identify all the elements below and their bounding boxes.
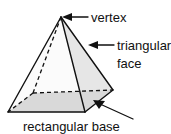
pyramid-diagram: vertex triangular face rectangular base xyxy=(0,0,171,134)
rectangular-base-label: rectangular base xyxy=(23,119,120,134)
rectangular-base-leader-line xyxy=(100,104,133,119)
pyramid-figure-svg: vertex triangular face rectangular base xyxy=(0,0,171,134)
face-label: face xyxy=(117,56,142,71)
triangular-label: triangular xyxy=(117,38,171,53)
vertex-label: vertex xyxy=(91,10,127,25)
triangular-face-arrow-head xyxy=(88,41,98,49)
